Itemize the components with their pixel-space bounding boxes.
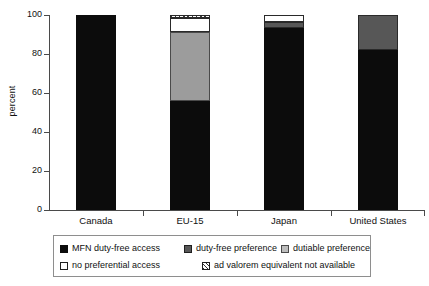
segment-no-preferential-access — [264, 15, 304, 22]
y-tick-label-60: 60 — [16, 88, 42, 97]
bar-united-states[interactable] — [358, 15, 398, 210]
x-label-canada: Canada — [46, 215, 146, 227]
legend-label: ad valorem equivalent not available — [210, 261, 355, 270]
y-tick-label-0: 0 — [16, 205, 42, 214]
y-axis-line — [49, 15, 50, 211]
bar-canada[interactable] — [76, 15, 116, 210]
y-tick-80 — [44, 54, 50, 55]
legend-label: duty-free preference — [192, 244, 277, 253]
plot-area: percent 100 80 60 40 20 0 Canada — [0, 0, 429, 232]
y-tick-label-20: 20 — [16, 166, 42, 175]
x-label-united-states: United States — [328, 215, 428, 227]
x-label-eu-15: EU-15 — [140, 215, 240, 227]
legend-label: no preferential access — [68, 261, 160, 270]
legend-row-2: no preferential access ad valorem equiva… — [54, 257, 370, 274]
y-tick-label-40: 40 — [16, 127, 42, 136]
stacked-bar-chart: percent 100 80 60 40 20 0 Canada — [0, 0, 429, 286]
legend-item-mfn-duty-free-access[interactable]: MFN duty-free access — [60, 244, 184, 253]
dutiable-preference-swatch-icon — [281, 245, 289, 253]
y-tick-20 — [44, 171, 50, 172]
y-axis-title: percent — [7, 71, 17, 131]
legend-item-duty-free-preference[interactable]: duty-free preference — [184, 244, 281, 253]
segment-mfn-duty-free-access — [264, 28, 304, 210]
y-tick-100 — [44, 15, 50, 16]
y-tick-label-80: 80 — [16, 49, 42, 58]
segment-dutiable-preference — [170, 32, 210, 101]
segment-no-preferential-access — [170, 18, 210, 32]
y-tick-60 — [44, 93, 50, 94]
y-tick-40 — [44, 132, 50, 133]
segment-mfn-duty-free-access — [170, 101, 210, 210]
no-preferential-access-swatch-icon — [60, 262, 68, 270]
legend-item-no-preferential-access[interactable]: no preferential access — [60, 261, 202, 270]
legend-row-1: MFN duty-free access duty-free preferenc… — [54, 240, 370, 257]
segment-mfn-duty-free-access — [76, 15, 116, 210]
legend-item-ad-valorem-not-available[interactable]: ad valorem equivalent not available — [202, 261, 355, 270]
legend-label: dutiable preference — [289, 244, 370, 253]
ad-valorem-not-available-swatch-icon — [202, 262, 210, 270]
chart-legend: MFN duty-free access duty-free preferenc… — [53, 235, 371, 277]
legend-item-dutiable-preference[interactable]: dutiable preference — [281, 244, 370, 253]
y-tick-label-100: 100 — [16, 10, 42, 19]
duty-free-preference-swatch-icon — [184, 245, 192, 253]
legend-label: MFN duty-free access — [68, 244, 160, 253]
segment-mfn-duty-free-access — [358, 50, 398, 210]
bar-japan[interactable] — [264, 15, 304, 210]
mfn-swatch-icon — [60, 245, 68, 253]
segment-duty-free-preference — [358, 15, 398, 50]
bar-eu-15[interactable] — [170, 15, 210, 210]
x-label-japan: Japan — [234, 215, 334, 227]
y-tick-0 — [44, 210, 50, 211]
